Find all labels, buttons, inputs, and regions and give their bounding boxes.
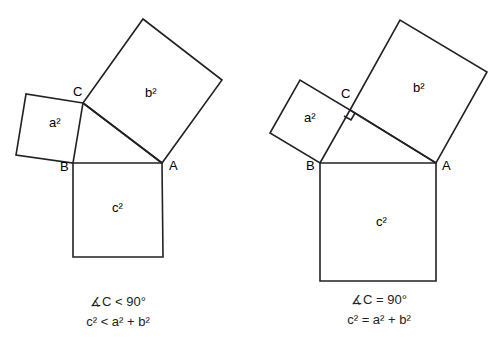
right-vertex-b: B (306, 158, 315, 173)
left-caption-equation: c² < a² + b² (38, 312, 198, 332)
right-caption-equation: c² = a² + b² (299, 310, 459, 330)
left-caption: ∡C < 90° c² < a² + b² (38, 292, 198, 332)
right-triangle-side-ca (350, 110, 436, 163)
right-label-c2: c² (376, 214, 387, 229)
right-vertex-a: A (442, 158, 451, 173)
right-label-b2: b² (413, 80, 425, 95)
left-label-c2: c² (112, 200, 123, 215)
left-caption-angle: ∡C < 90° (38, 292, 198, 312)
left-label-b2: b² (145, 85, 157, 100)
left-vertex-c: C (73, 84, 82, 99)
left-vertex-b: B (60, 159, 69, 174)
right-vertex-c: C (341, 86, 350, 101)
left-label-a2: a² (49, 115, 61, 130)
right-label-a2: a² (304, 110, 316, 125)
left-triangle-side-ca (83, 103, 162, 163)
right-caption: ∡C = 90° c² = a² + b² (299, 290, 459, 330)
left-vertex-a: A (169, 158, 178, 173)
right-caption-angle: ∡C = 90° (299, 290, 459, 310)
